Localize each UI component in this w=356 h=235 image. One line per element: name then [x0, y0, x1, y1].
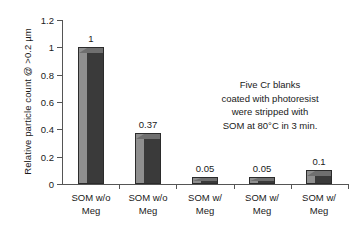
bar-face	[78, 47, 104, 184]
y-tick-mark	[57, 102, 62, 103]
y-tick-label: 0.2	[41, 151, 54, 162]
annotation-textbox: Five Cr blankscoated with photoresistwer…	[186, 78, 354, 132]
y-tick-mark	[57, 184, 62, 185]
y-tick-mark	[57, 75, 62, 76]
x-tick-mark	[234, 184, 235, 189]
x-tick-mark	[119, 184, 120, 189]
bar-face	[192, 177, 218, 184]
y-tick-label: 0	[49, 179, 54, 190]
y-tick-mark	[57, 20, 62, 21]
annotation-line: Five Cr blanks	[186, 78, 354, 92]
bar: 0.05	[249, 177, 275, 184]
bar-bevel-corner	[307, 171, 315, 176]
x-axis-line	[62, 184, 348, 185]
bar: 0.37	[135, 133, 161, 184]
bar-face	[306, 170, 332, 184]
bar-value-label: 0.05	[253, 163, 272, 174]
bar-value-label: 1	[88, 33, 93, 44]
x-category-label-line: SOM w/	[282, 192, 356, 205]
x-category-label-line: Meg	[282, 205, 356, 218]
bar-chart-figure: Relative particle count @ >0.2 µm 1.210.…	[0, 0, 356, 235]
bar-bevel-corner	[136, 134, 144, 139]
bar-value-label: 0.1	[312, 156, 325, 167]
bar-value-label: 0.37	[139, 119, 158, 130]
y-tick-label: 0.8	[41, 69, 54, 80]
bar-value-label: 0.05	[196, 163, 215, 174]
annotation-line: SOM at 80°C in 3 min.	[186, 119, 354, 133]
bar-bevel-corner	[250, 178, 258, 181]
y-tick-label: 0.6	[41, 97, 54, 108]
bar-bevel-corner	[193, 178, 201, 181]
bar: 1	[78, 47, 104, 184]
y-tick-label: 1.2	[41, 15, 54, 26]
y-tick-mark	[57, 129, 62, 130]
y-tick-mark	[57, 157, 62, 158]
x-category-label: SOM w/Meg	[282, 192, 356, 217]
bar: 0.1	[306, 170, 332, 184]
x-tick-mark	[291, 184, 292, 189]
bar: 0.05	[192, 177, 218, 184]
x-tick-mark	[176, 184, 177, 189]
y-axis-title: Relative particle count @ >0.2 µm	[22, 12, 33, 192]
x-tick-mark	[348, 184, 349, 189]
bar-face	[249, 177, 275, 184]
y-tick-label: 1	[49, 42, 54, 53]
bar-face	[135, 133, 161, 184]
y-tick-mark	[57, 47, 62, 48]
annotation-line: were stripped with	[186, 105, 354, 119]
y-axis-line	[62, 20, 63, 185]
bar-bevel-corner	[79, 48, 87, 53]
y-tick-label: 0.4	[41, 124, 54, 135]
annotation-line: coated with photoresist	[186, 92, 354, 106]
